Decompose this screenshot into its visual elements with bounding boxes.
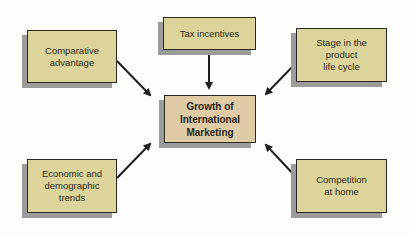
factor-label: Competition at home	[316, 174, 367, 198]
factor-box-tax-incentives: Tax incentives	[163, 17, 256, 50]
diagram-canvas: Comparative advantage Tax incentives Sta…	[0, 0, 409, 236]
factor-box-comparative-advantage: Comparative advantage	[27, 30, 117, 83]
factor-label: Economic and demographic trends	[42, 168, 102, 204]
arrow-competition-to-center	[266, 145, 296, 177]
factor-label: Tax incentives	[180, 28, 240, 40]
arrow-comparative-to-center	[117, 61, 150, 95]
factor-label: Stage in the product life cycle	[316, 37, 367, 73]
factor-label: Comparative advantage	[45, 45, 99, 69]
center-box-growth-of-international-marketing: Growth of International Marketing	[164, 95, 256, 143]
arrow-stage-to-center	[266, 63, 296, 94]
factor-box-competition-at-home: Competition at home	[296, 159, 387, 213]
center-label: Growth of International Marketing	[180, 100, 240, 139]
factor-box-economic-demographic-trends: Economic and demographic trends	[27, 159, 117, 213]
factor-box-product-life-cycle: Stage in the product life cycle	[296, 28, 387, 82]
arrow-economic-to-center	[117, 144, 150, 178]
